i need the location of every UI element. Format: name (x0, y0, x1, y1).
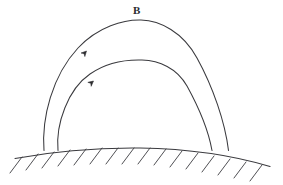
inner-field-line (58, 60, 212, 151)
hatch-mark (218, 159, 230, 175)
field-label-b: B (133, 5, 140, 16)
field-line-diagram (0, 0, 283, 185)
hatch-mark (234, 162, 246, 178)
hatch-mark (250, 165, 262, 181)
hatch-mark (74, 149, 86, 165)
hatch-mark (122, 148, 134, 164)
outer-line-arrow-icon (81, 49, 88, 56)
hatch-mark (90, 148, 102, 164)
hatch-mark (138, 148, 150, 164)
hatch-mark (106, 148, 118, 164)
outer-field-line (44, 20, 229, 151)
figure-canvas: B (0, 0, 283, 185)
hatch-mark (186, 153, 198, 169)
hatch-mark (10, 157, 22, 173)
inner-line-arrow-icon (88, 79, 95, 86)
hatch-mark (202, 156, 214, 172)
hatch-mark (154, 149, 166, 165)
hatch-mark (170, 151, 182, 167)
